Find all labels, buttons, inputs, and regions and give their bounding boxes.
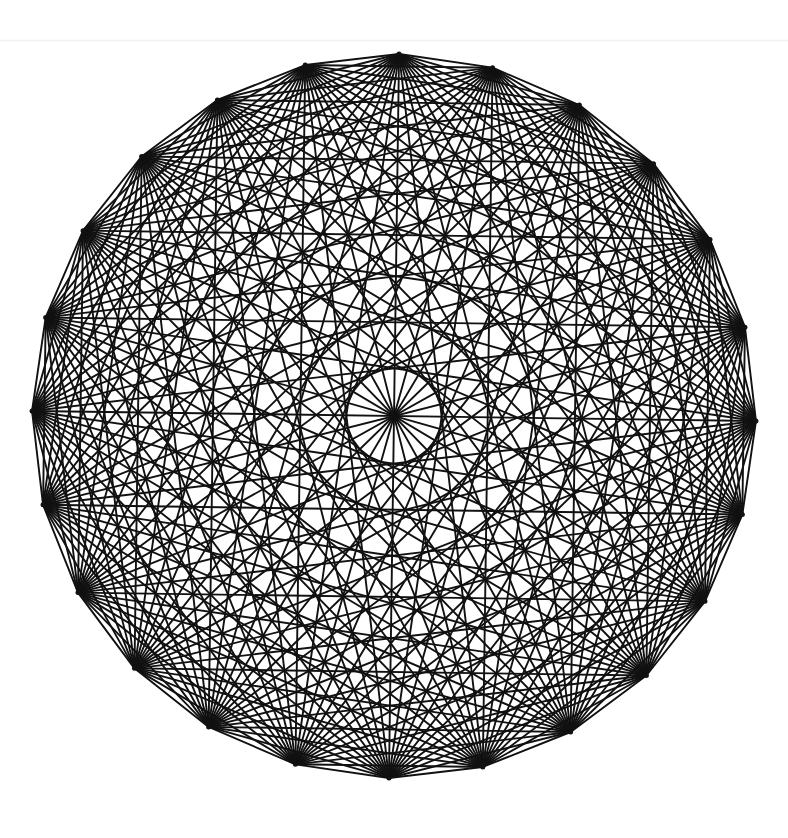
graph-edge <box>134 54 399 668</box>
graph-edge <box>571 327 745 732</box>
complete-graph-diagram <box>0 0 788 838</box>
graph-edge <box>209 65 306 727</box>
graph-edge <box>483 105 580 767</box>
graph-vertex <box>386 775 391 780</box>
graph-vertex <box>753 419 758 424</box>
graph-edge <box>32 231 83 411</box>
graph-edge <box>305 65 742 515</box>
graph-edge <box>305 65 492 68</box>
graph-vertex <box>702 599 707 604</box>
graph-edge <box>389 164 654 778</box>
graph-edge <box>142 156 756 421</box>
graph-vertex <box>30 408 35 413</box>
graph-vertex <box>215 98 220 103</box>
graph-vertex <box>708 237 713 242</box>
graph-edge <box>32 411 646 676</box>
graph-vertex <box>139 154 144 159</box>
graph-vertex <box>43 315 48 320</box>
graph-vertex <box>480 764 485 769</box>
graph-vertex <box>577 103 582 108</box>
graph-edge <box>209 727 389 778</box>
graph-vertex <box>742 325 747 330</box>
graph-edge <box>78 593 483 767</box>
graph-vertex <box>740 512 745 517</box>
graph-vertex <box>644 673 649 678</box>
graph-edge <box>43 505 705 602</box>
graph-vertex <box>41 502 46 507</box>
graph-vertex <box>490 65 495 70</box>
graph-edge <box>46 317 483 767</box>
graph-vertex <box>293 762 298 767</box>
graph-vertex <box>397 52 402 57</box>
graph-edge <box>43 317 46 504</box>
graph-vertex <box>206 724 211 729</box>
graph-vertex <box>132 666 137 671</box>
graph-edge <box>83 231 745 328</box>
graph-vertex <box>76 590 81 595</box>
graph-edges <box>32 54 756 778</box>
graph-edge <box>32 411 571 732</box>
graph-vertex <box>568 730 573 735</box>
graph-edge <box>217 100 756 421</box>
graph-vertex <box>303 63 308 68</box>
graph-vertex <box>81 228 86 233</box>
graph-edge <box>43 100 217 505</box>
graph-edge <box>305 65 710 239</box>
graph-edge <box>295 764 482 767</box>
graph-vertex <box>651 161 656 166</box>
